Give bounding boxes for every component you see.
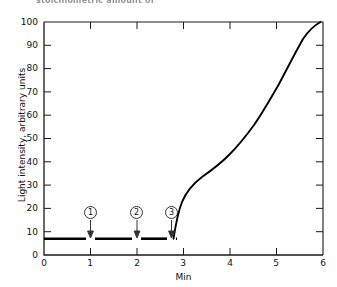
y-axis-ticks	[44, 45, 51, 231]
x-axis-ticks	[91, 248, 277, 255]
right-axis-ticks	[316, 45, 323, 231]
annotation-arrows	[88, 220, 175, 238]
chart-plot-area	[0, 0, 337, 287]
top-axis-ticks	[91, 22, 277, 29]
emission-curve	[174, 22, 321, 239]
axis-frame	[44, 22, 323, 255]
chart-figure: stoichiometric amount of Light intensity…	[0, 0, 337, 287]
